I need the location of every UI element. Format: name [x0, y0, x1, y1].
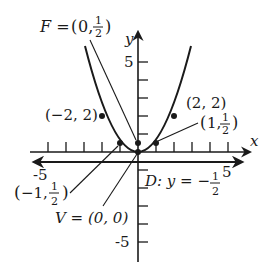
point-label-1-half-den: 2 — [222, 124, 229, 137]
point-label-1-half-open: ( — [200, 113, 206, 132]
point-label-neg2-2: (−2, 2) — [45, 106, 98, 124]
x-tick-label-5: 5 — [222, 163, 232, 181]
directrix-label-prefix: D: y = − — [144, 172, 210, 190]
focus-label-prefix: F = — [39, 17, 70, 36]
point-2-2 — [171, 113, 177, 119]
point-label-neg1-half-open: ( — [14, 182, 21, 202]
directrix-label-num: 1 — [212, 170, 219, 183]
y-tick-label-5: 5 — [124, 53, 134, 71]
y-axis-label: y — [124, 30, 134, 48]
focus-point — [135, 140, 141, 146]
y-tick-label-neg5: -5 — [115, 233, 130, 251]
point-label-neg1-half-close: ) — [62, 182, 69, 202]
point-1-half — [153, 140, 159, 146]
point-label-1-half-one: 1, — [207, 114, 221, 132]
point-label-2-2: (2, 2) — [186, 94, 226, 112]
focus-label-open: ( — [71, 17, 77, 36]
x-tick-label-neg5: -5 — [33, 166, 48, 184]
point-neg2-2 — [99, 113, 105, 119]
directrix-label-den: 2 — [212, 185, 219, 198]
x-axis-label: x — [250, 132, 259, 150]
point-label-1-half-close: ) — [232, 113, 238, 132]
point-neg1-half — [117, 140, 123, 146]
focus-label-close: ) — [105, 17, 111, 36]
focus-label-den: 2 — [95, 27, 102, 40]
focus-label-num: 1 — [95, 14, 102, 27]
focus-label-zero: 0, — [78, 17, 93, 36]
parabola-diagram: y x 5 -5 -5 5 F = ( 0, 1 2 ) (−2, 2) (2,… — [0, 0, 266, 266]
point-label-neg1-half-val: −1, — [21, 184, 48, 202]
vertex-label: V = (0, 0) — [55, 209, 128, 227]
point-label-neg1-half-num: 1 — [51, 180, 58, 193]
point-label-1-half-num: 1 — [222, 111, 229, 124]
point-label-neg1-half-den: 2 — [51, 195, 58, 208]
vertex-point — [135, 149, 141, 155]
